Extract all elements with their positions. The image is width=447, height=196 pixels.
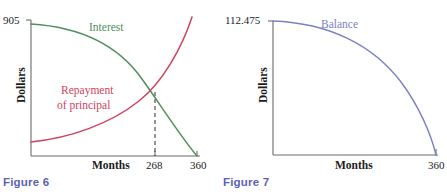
figure-6-caption: Figure 6 <box>3 176 49 188</box>
series-label-balance: Balance <box>321 19 358 31</box>
x-tick-label-268: 268 <box>146 160 163 171</box>
series-label-repayment-line1: Repayment <box>61 85 113 97</box>
y-max-label-fig7: 112.475 <box>225 15 260 26</box>
y-axis-title-fig6: Dollars <box>16 67 28 103</box>
interest-curve <box>31 24 197 156</box>
x-axis-title-fig7: Months <box>335 160 373 172</box>
figure-7-caption: Figure 7 <box>223 176 269 188</box>
figure-6: 905 Dollars Months 268 360 Interest Repa… <box>0 0 224 196</box>
x-tick-label-360-fig7: 360 <box>428 160 445 171</box>
x-tick-label-360-fig6: 360 <box>190 160 207 171</box>
figures-canvas: 905 Dollars Months 268 360 Interest Repa… <box>0 0 447 196</box>
series-label-repayment-line2: of principal <box>57 100 110 112</box>
y-axis-title-fig7: Dollars <box>258 67 270 103</box>
x-axis-title-fig6: Months <box>92 160 130 172</box>
balance-curve <box>273 21 436 155</box>
repayment-curve <box>31 17 192 142</box>
figure-7: 112.475 Dollars Months 360 Balance Figur… <box>223 0 447 196</box>
y-max-label-fig6: 905 <box>3 15 20 26</box>
series-label-interest: Interest <box>89 22 123 34</box>
